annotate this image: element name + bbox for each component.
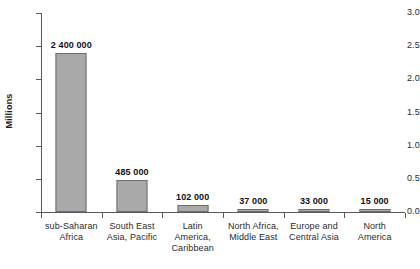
- category-label-line: Asia, Pacific: [102, 232, 163, 243]
- x-axis-tick: [102, 213, 103, 218]
- bar: [116, 180, 147, 212]
- x-axis-category-label: Europe andCentral Asia: [284, 221, 345, 243]
- category-label-line: America,: [162, 232, 223, 243]
- bar-value-label: 37 000: [239, 196, 267, 206]
- x-axis-tick: [344, 213, 345, 218]
- bar: [56, 53, 87, 212]
- x-axis-category-label: NorthAmerica: [344, 221, 405, 243]
- bar-value-label: 485 000: [115, 167, 148, 177]
- category-label-line: Middle East: [223, 232, 284, 243]
- bar-group: 15 000: [344, 13, 405, 212]
- bar-value-label: 33 000: [300, 196, 328, 206]
- bar-group: 2 400 000: [41, 13, 102, 212]
- category-label-line: Latin: [162, 221, 223, 232]
- x-axis-tick: [405, 213, 406, 218]
- bar-value-label: 102 000: [176, 192, 209, 202]
- bar-value-label: 2 400 000: [51, 40, 92, 50]
- plot-area: 2 400 000485 000102 00037 00033 00015 00…: [41, 13, 405, 212]
- bar: [177, 205, 208, 212]
- x-axis-category-label: North Africa,Middle East: [223, 221, 284, 243]
- category-label-line: Central Asia: [284, 232, 345, 243]
- category-label-line: sub-Saharan: [41, 221, 102, 232]
- bar-value-label: 15 000: [361, 196, 389, 206]
- bar-group: 37 000: [223, 13, 284, 212]
- y-axis-title: Millions: [4, 81, 14, 141]
- category-label-line: Africa: [41, 232, 102, 243]
- x-axis-category-label: South EastAsia, Pacific: [102, 221, 163, 243]
- x-axis-tick: [223, 213, 224, 218]
- category-label-line: North: [344, 221, 405, 232]
- x-axis-category-label: sub-SaharanAfrica: [41, 221, 102, 243]
- x-axis-tick: [41, 213, 42, 218]
- category-label-line: Europe and: [284, 221, 345, 232]
- x-axis-tick: [284, 213, 285, 218]
- x-axis-category-label: LatinAmerica,Caribbean: [162, 221, 223, 254]
- category-label-line: North Africa,: [223, 221, 284, 232]
- bar-group: 102 000: [162, 13, 223, 212]
- category-label-line: America: [344, 232, 405, 243]
- bar: [359, 209, 390, 212]
- category-label-line: Caribbean: [162, 243, 223, 254]
- x-axis-tick: [162, 213, 163, 218]
- category-label-line: South East: [102, 221, 163, 232]
- bar-group: 33 000: [284, 13, 345, 212]
- bar-group: 485 000: [102, 13, 163, 212]
- bar: [298, 209, 329, 212]
- bar-chart: 0.00.51.01.52.02.53.0 Millions 2 400 000…: [0, 0, 420, 269]
- bar: [238, 209, 269, 212]
